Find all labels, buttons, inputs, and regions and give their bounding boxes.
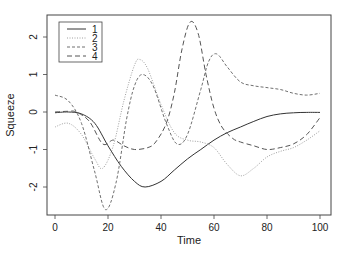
series-3-line [55, 54, 320, 210]
y-tick-label: -1 [28, 145, 39, 154]
x-axis-label: Time [177, 234, 201, 246]
line-chart: 020406080100 -2-1012 1234 Time Squeeze [0, 0, 348, 256]
y-tick-label: -2 [28, 182, 39, 191]
x-axis: 020406080100 [52, 215, 329, 233]
x-tick-label: 0 [52, 222, 58, 233]
y-tick-label: 0 [28, 109, 39, 115]
legend: 1234 [59, 22, 102, 62]
x-tick-label: 60 [208, 222, 220, 233]
y-tick-label: 2 [28, 34, 39, 40]
y-axis-label: Squeeze [4, 93, 16, 136]
x-tick-label: 80 [261, 222, 273, 233]
series-1-line [55, 112, 320, 187]
x-tick-label: 100 [312, 222, 329, 233]
y-axis: -2-1012 [28, 34, 47, 192]
legend-label-4: 4 [92, 51, 98, 62]
x-tick-label: 40 [155, 222, 167, 233]
x-tick-label: 20 [102, 222, 114, 233]
y-tick-label: 1 [28, 71, 39, 77]
